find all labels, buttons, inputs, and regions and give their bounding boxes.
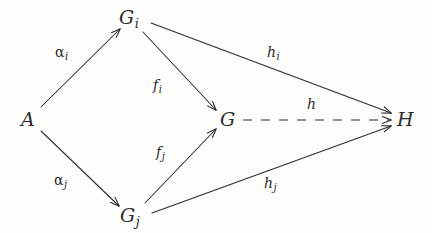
edge-label-alpha-i: αi — [55, 45, 68, 62]
node-G: G — [220, 110, 235, 129]
edge-label-h-j: hj — [264, 176, 277, 193]
edge-h-j — [152, 126, 391, 213]
node-A-label: A — [21, 108, 35, 130]
edge-label-f-j-subscript: j — [162, 151, 165, 162]
edge-label-f-i: fi — [153, 78, 162, 95]
node-H-label: H — [397, 108, 414, 130]
edge-label-h-j-subscript: j — [274, 182, 277, 193]
edge-label-f-i-text: f — [153, 77, 158, 93]
node-A: A — [21, 110, 35, 129]
edge-h-i — [151, 23, 391, 113]
node-Gi-label: G — [119, 6, 134, 28]
edge-label-alpha-j: αj — [54, 173, 67, 190]
edge-label-alpha-j-text: α — [54, 172, 63, 188]
diagram-edges-canvas: H : h (dashed) --> — [0, 0, 432, 233]
node-Gi-subscript: i — [135, 16, 139, 31]
edge-label-h-text: h — [307, 96, 316, 112]
node-Gi: Gi — [119, 8, 139, 31]
node-Gj: Gj — [120, 206, 140, 229]
edge-label-alpha-i-text: α — [55, 44, 64, 60]
edge-label-f-i-subscript: i — [159, 84, 162, 95]
edge-label-h-i-text: h — [267, 44, 276, 60]
edge-label-h-i: hi — [267, 45, 280, 62]
edge-f-j — [145, 129, 216, 203]
edge-label-alpha-j-subscript: j — [64, 179, 67, 190]
edge-alpha-j — [41, 131, 119, 206]
edge-label-h-j-text: h — [264, 175, 273, 191]
edge-label-alpha-i-subscript: i — [65, 51, 68, 62]
edge-label-f-j: fj — [156, 145, 165, 162]
node-Gj-label: G — [120, 204, 135, 226]
edge-label-h: h — [307, 97, 316, 111]
edge-alpha-i — [41, 29, 120, 107]
edge-label-h-i-subscript: i — [277, 51, 280, 62]
node-G-label: G — [220, 108, 235, 130]
node-H: H — [397, 110, 414, 129]
node-Gj-subscript: j — [136, 214, 140, 229]
edge-label-f-j-text: f — [156, 144, 161, 160]
commutative-diagram: H : h (dashed) --> A Gi Gj G H αi αj fi … — [0, 0, 432, 233]
